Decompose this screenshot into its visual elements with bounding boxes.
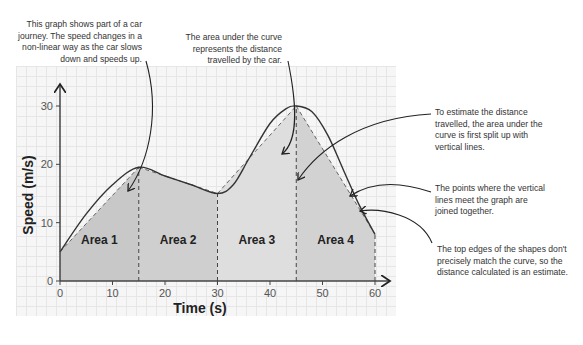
- y-tick-label: 30: [41, 100, 53, 112]
- x-tick-label: 40: [264, 287, 276, 299]
- y-tick-label: 20: [41, 158, 53, 170]
- x-tick-label: 0: [57, 287, 63, 299]
- y-tick-label: 10: [41, 217, 53, 229]
- trapezoid-area-1: [60, 167, 139, 281]
- x-tick-label: 30: [211, 287, 223, 299]
- x-tick-label: 10: [106, 287, 118, 299]
- trapezoid-area-3: [218, 106, 297, 281]
- trapezoid-area-4: [296, 106, 375, 281]
- speed-time-chart: 01020304050600102030 Area 1Area 2Area 3A…: [0, 0, 583, 345]
- area-label: Area 3: [239, 233, 276, 247]
- y-axis-label: Speed (m/s): [20, 155, 36, 234]
- trapezoid-area-2: [139, 167, 218, 281]
- x-tick-label: 20: [159, 287, 171, 299]
- leader-line-right-2: [350, 184, 431, 196]
- x-axis-label: Time (s): [173, 300, 226, 316]
- area-label: Area 1: [81, 233, 118, 247]
- area-label: Area 4: [317, 233, 354, 247]
- area-label: Area 2: [160, 233, 197, 247]
- x-tick-label: 50: [316, 287, 328, 299]
- y-tick-label: 0: [47, 275, 53, 287]
- x-tick-label: 60: [369, 287, 381, 299]
